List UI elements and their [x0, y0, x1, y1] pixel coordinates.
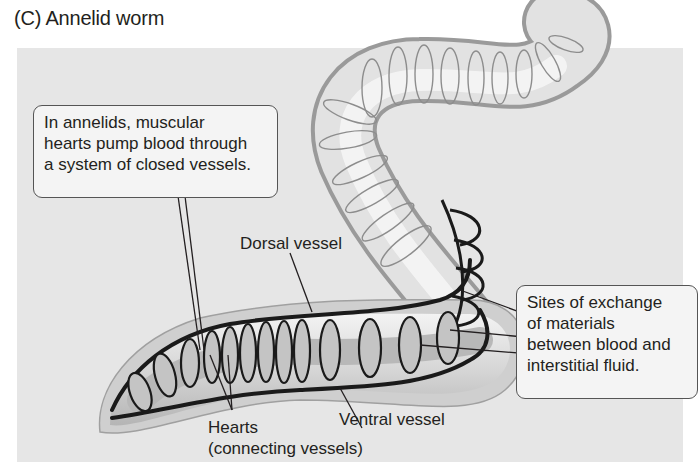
callout-line-3: a system of closed vessels. [44, 154, 267, 175]
annelid-worm-illustration [0, 0, 698, 472]
label-hearts-sub: (connecting vessels) [208, 438, 363, 459]
callout-line-2: of materials [527, 313, 687, 334]
worm-upper-body [318, 22, 585, 330]
callout-line-2: hearts pump blood through [44, 133, 267, 154]
label-ventral-vessel: Ventral vessel [339, 409, 445, 430]
callout-closed-circulation: In annelids, muscular hearts pump blood … [33, 105, 278, 198]
callout-line-3: between blood and [527, 334, 687, 355]
label-hearts: Hearts [208, 417, 258, 438]
label-dorsal-vessel: Dorsal vessel [240, 233, 342, 254]
callout-line-1: In annelids, muscular [44, 112, 267, 133]
callout-line-4: interstitial fluid. [527, 355, 687, 376]
callout-exchange-sites: Sites of exchange of materials between b… [516, 285, 698, 399]
callout-line-1: Sites of exchange [527, 292, 687, 313]
